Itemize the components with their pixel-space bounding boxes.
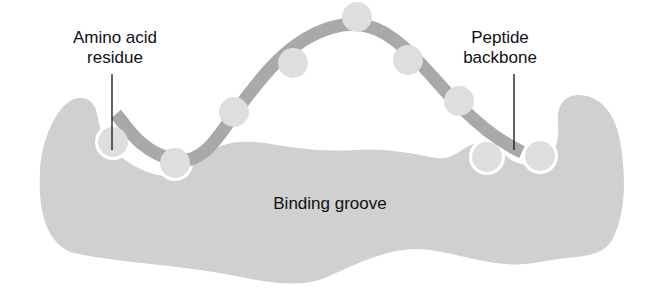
residue-2: [160, 148, 190, 178]
peptide-label-line-1: Peptide: [440, 28, 560, 48]
residue-5: [342, 2, 372, 32]
amino-acid-label-line-2: residue: [55, 48, 175, 68]
residue-4: [278, 48, 308, 78]
amino-acid-residue-label: Amino acid residue: [55, 28, 175, 68]
residue-3: [219, 97, 249, 127]
peptide-label-line-2: backbone: [440, 48, 560, 68]
diagram-canvas: Amino acid residue Peptide backbone Bind…: [0, 0, 662, 293]
residue-1: [98, 127, 128, 157]
residue-8: [472, 142, 502, 172]
residue-7: [444, 86, 474, 116]
peptide-backbone-label: Peptide backbone: [440, 28, 560, 68]
amino-acid-label-line-1: Amino acid: [55, 28, 175, 48]
binding-groove-label: Binding groove: [230, 194, 430, 214]
residue-9: [525, 141, 555, 171]
residue-6: [393, 45, 423, 75]
